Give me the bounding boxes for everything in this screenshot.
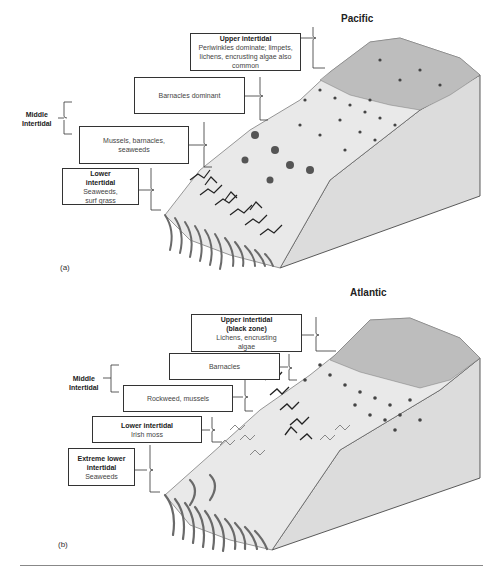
zone-description: Seaweeds — [73, 472, 130, 481]
ocean-title-atlantic: Atlantic — [350, 287, 387, 298]
panel-tag-b: (b) — [58, 540, 68, 549]
zone-description: Barnacles dominant — [138, 91, 241, 100]
zone-description: Seaweeds, surf grass — [77, 187, 124, 205]
zone-label-barnacles: Barnacles dominant — [134, 77, 245, 114]
side-label-line1: Middle — [69, 374, 99, 383]
figure-bottom-rule — [20, 565, 483, 566]
zone-description: Lichens, encrusting algae — [210, 333, 283, 351]
side-label-line2: Intertidal — [69, 383, 99, 392]
zone-label-upper-intertidal-black-zone: Upper intertidal (black zone) Lichens, e… — [191, 314, 302, 352]
panel-tag-a: (a) — [60, 263, 70, 272]
side-label-line1: Middle — [22, 110, 52, 119]
zone-label-rockweed-mussels: Rockweed, mussels — [123, 385, 233, 412]
zone-heading: Extreme lower intertidal — [73, 454, 130, 472]
zone-label-extreme-lower-intertidal: Extreme lower intertidal Seaweeds — [68, 448, 135, 486]
zone-label-mussels: Mussels, barnacles, seaweeds — [79, 126, 189, 164]
zone-description: Mussels, barnacles, seaweeds — [98, 136, 170, 154]
zone-description: Rockweed, mussels — [127, 394, 229, 403]
zone-label-barnacles: Barnacles — [169, 353, 280, 380]
zone-heading: Lower intertidal — [96, 421, 198, 430]
zone-label-lower-intertidal: Lower intertidal Irish moss — [92, 416, 202, 443]
zone-heading: Upper intertidal — [194, 34, 297, 43]
zone-description: Barnacles — [173, 362, 276, 371]
zone-description: Periwinkles dominate; limpets, lichens, … — [194, 43, 297, 70]
panel-atlantic: Atlantic Upper intertidal (black zone) L… — [0, 280, 501, 573]
zone-heading: Lower intertidal — [77, 169, 124, 187]
zone-heading: Upper intertidal (black zone) — [210, 315, 283, 333]
zone-description: Irish moss — [96, 430, 198, 439]
zone-label-upper-intertidal: Upper intertidal Periwinkles dominate; l… — [190, 33, 301, 71]
zone-label-lower-intertidal: Lower intertidal Seaweeds, surf grass — [62, 168, 139, 205]
side-label-line2: Intertidal — [22, 119, 52, 128]
ocean-title-pacific: Pacific — [341, 13, 373, 24]
middle-intertidal-label: Middle Intertidal — [69, 374, 99, 392]
panel-pacific: Pacific Upper intertidal Periwinkles dom… — [0, 0, 501, 280]
middle-intertidal-label: Middle Intertidal — [22, 110, 52, 128]
